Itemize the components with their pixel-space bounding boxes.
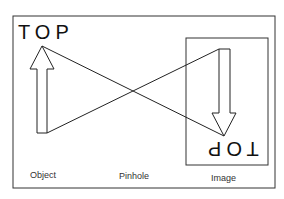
object-arrow-up-icon	[30, 46, 54, 133]
pinhole-label: Pinhole	[119, 171, 149, 181]
image-inverted-top-text: TOP	[203, 139, 259, 159]
image-arrow-down-icon	[212, 49, 236, 136]
object-top-text: TOP	[18, 22, 74, 42]
image-label: Image	[211, 173, 236, 183]
object-label: Object	[30, 170, 56, 180]
